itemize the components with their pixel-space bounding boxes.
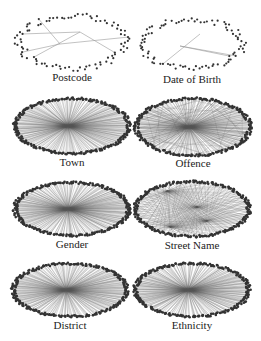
node: [206, 315, 209, 318]
node: [164, 312, 167, 315]
node: [215, 314, 218, 317]
node: [213, 265, 216, 268]
node: [137, 277, 140, 280]
node: [172, 313, 175, 316]
node: [167, 313, 170, 316]
node: [231, 308, 234, 311]
node: [235, 274, 238, 277]
node: [141, 274, 144, 277]
node: [192, 316, 195, 319]
network-graph-ethnicity: [0, 0, 261, 341]
node: [156, 309, 159, 312]
node: [174, 313, 177, 316]
node: [245, 297, 248, 300]
node: [197, 315, 200, 318]
node: [187, 315, 190, 318]
node: [144, 272, 147, 275]
node: [199, 262, 202, 265]
node: [150, 306, 153, 309]
node: [139, 280, 142, 283]
node: [152, 268, 155, 271]
node: [227, 269, 230, 272]
node: [249, 288, 252, 291]
node: [239, 276, 242, 279]
node: [240, 303, 243, 306]
node: [168, 264, 171, 267]
node: [219, 312, 222, 315]
node: [237, 272, 240, 275]
node: [227, 310, 230, 313]
node: [180, 314, 183, 317]
node: [243, 301, 246, 304]
node: [247, 293, 250, 296]
node: [172, 264, 175, 267]
node: [210, 313, 213, 316]
node: [201, 314, 204, 317]
node: [192, 263, 195, 266]
node: [164, 264, 167, 267]
node: [132, 284, 135, 287]
node: [150, 269, 153, 272]
node: [243, 280, 246, 283]
node: [190, 262, 193, 265]
panel-label-ethnicity: Ethnicity: [172, 319, 212, 331]
node: [222, 268, 225, 271]
node: [184, 262, 187, 265]
node: [174, 262, 177, 265]
node: [247, 289, 250, 292]
